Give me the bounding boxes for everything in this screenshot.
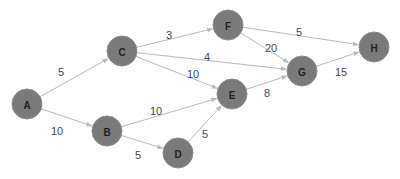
edge-weight-label: 5: [296, 26, 302, 38]
edge-a-c: [40, 59, 108, 97]
node-label: F: [225, 21, 231, 32]
edge-weight-label: 10: [150, 105, 162, 117]
node-label: E: [229, 90, 236, 101]
node-h: H: [359, 32, 389, 62]
edge-b-d: [121, 135, 162, 148]
node-label: A: [23, 100, 30, 111]
edge-weight-label: 5: [58, 66, 64, 78]
edge-weight-label: 10: [187, 68, 199, 80]
node-label: D: [174, 149, 181, 160]
node-d: D: [163, 138, 193, 168]
node-e: E: [217, 79, 247, 109]
edge-weight-label: 15: [335, 66, 347, 78]
edge-g-h: [316, 52, 359, 66]
edge-weight-label: 8: [264, 87, 270, 99]
edge-weight-label: 4: [204, 51, 210, 63]
graph-canvas: 51034101055520815 ABCDEFGH: [0, 0, 400, 179]
edge-weight-label: 3: [166, 29, 172, 41]
edges-layer: [40, 27, 359, 148]
node-label: G: [298, 67, 306, 78]
edge-weight-label: 20: [265, 42, 277, 54]
node-b: B: [92, 116, 122, 146]
edge-weight-label: 5: [135, 149, 141, 161]
node-a: A: [12, 89, 42, 119]
node-c: C: [107, 36, 137, 66]
edge-weight-label: 5: [202, 128, 208, 140]
node-g: G: [287, 56, 317, 86]
edge-a-b: [41, 109, 92, 126]
edge-c-f: [137, 29, 213, 48]
node-label: C: [118, 47, 125, 58]
node-label: B: [103, 127, 110, 138]
edge-b-e: [121, 99, 216, 127]
nodes-layer: ABCDEFGH: [12, 10, 389, 168]
node-f: F: [213, 10, 243, 40]
edge-c-g: [137, 53, 286, 69]
edge-weight-label: 10: [51, 125, 63, 137]
node-label: H: [370, 43, 377, 54]
